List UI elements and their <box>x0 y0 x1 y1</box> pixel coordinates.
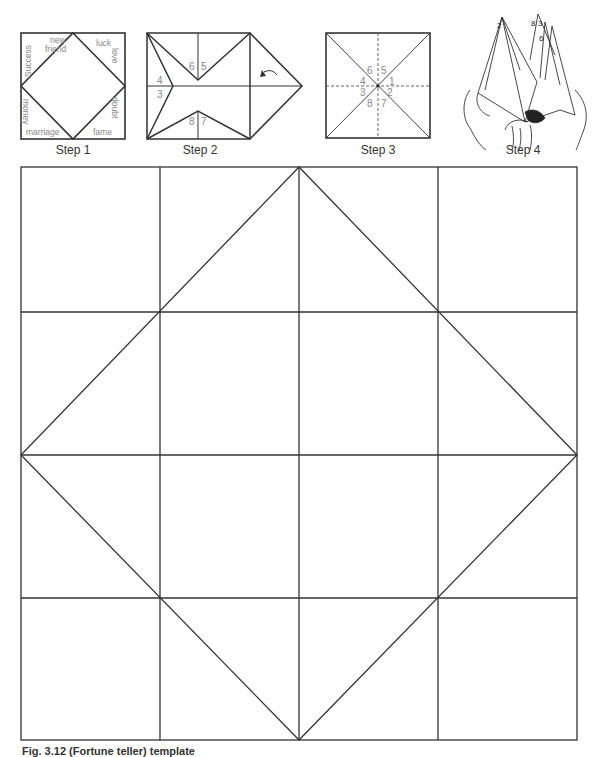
step1-word-marriage: marriage <box>26 127 60 137</box>
svg-text:5: 5 <box>381 65 387 76</box>
svg-text:8: 8 <box>367 98 373 109</box>
template-grid <box>21 167 577 740</box>
svg-text:6: 6 <box>189 61 195 72</box>
step1-word-friend: friend <box>45 44 67 54</box>
step2-numbers: 6 5 4 3 8 7 <box>157 61 207 127</box>
step1-word-fame: fame <box>93 127 112 137</box>
svg-text:4: 4 <box>360 76 366 87</box>
svg-text:7: 7 <box>201 116 207 127</box>
svg-text:3: 3 <box>360 87 366 98</box>
svg-text:8: 8 <box>189 116 195 127</box>
svg-text:1: 1 <box>389 76 395 87</box>
figure-caption: Fig. 3.12 (Fortune teller) template <box>22 745 195 757</box>
svg-text:2: 2 <box>387 87 393 98</box>
svg-text:7: 7 <box>381 98 387 109</box>
svg-text:6: 6 <box>367 65 373 76</box>
step1-word-luck: luck <box>96 38 112 48</box>
svg-text:5: 5 <box>201 61 207 72</box>
svg-text:3: 3 <box>157 89 163 100</box>
svg-text:3: 3 <box>538 19 543 28</box>
step2-diagram <box>147 33 302 139</box>
svg-text:4: 4 <box>157 75 163 86</box>
step2-label: Step 2 <box>160 143 240 157</box>
step1-diagram: new friend luck love Success money doubt… <box>21 33 125 139</box>
step3-label: Step 3 <box>338 143 418 157</box>
step1-word-doubt: doubt <box>110 97 120 119</box>
step1-word-love: love <box>110 48 120 64</box>
svg-text:8: 8 <box>531 19 536 28</box>
step1-word-success: Success <box>23 45 33 77</box>
step4-illustration <box>464 14 586 150</box>
step1-label: Step 1 <box>33 143 113 157</box>
step3-diagram <box>326 33 430 138</box>
step4-label: Step 4 <box>483 143 563 157</box>
svg-text:2: 2 <box>497 21 502 30</box>
step1-word-money: money <box>21 99 31 125</box>
svg-text:6: 6 <box>539 34 544 43</box>
